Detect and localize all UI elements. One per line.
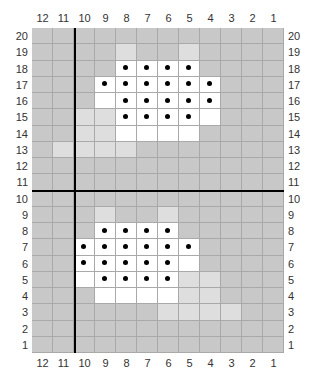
grid-cell (263, 44, 284, 60)
grid-cell (116, 174, 137, 190)
grid-cell (116, 321, 137, 337)
dot-icon (123, 244, 128, 249)
grid-cell (179, 288, 200, 304)
grid-cell (263, 126, 284, 142)
grid-cell (179, 93, 200, 109)
grid-cell (53, 321, 74, 337)
row-label: 19 (288, 44, 312, 60)
grid-cell (221, 337, 242, 353)
grid-cell (263, 174, 284, 190)
grid-cell (221, 256, 242, 272)
grid-cell (53, 158, 74, 174)
dot-icon (102, 260, 107, 265)
grid-cell (53, 61, 74, 77)
column-label: 1 (263, 12, 284, 24)
grid-cell (53, 191, 74, 207)
dot-icon (123, 276, 128, 281)
grid-cell (53, 44, 74, 60)
grid-cell (116, 61, 137, 77)
grid-cell (263, 239, 284, 255)
row-label: 20 (288, 28, 312, 44)
grid-cell (242, 142, 263, 158)
grid-cell (32, 207, 53, 223)
column-label: 10 (74, 12, 95, 24)
dot-icon (123, 260, 128, 265)
grid-cell (179, 61, 200, 77)
grid-cell (200, 304, 221, 320)
row-labels-left: 2019181716151413121110987654321 (4, 28, 28, 353)
grid-cell (74, 158, 95, 174)
grid-cell (32, 337, 53, 353)
dot-icon (186, 244, 191, 249)
grid-cell (263, 272, 284, 288)
grid-cell (158, 223, 179, 239)
grid-cell (242, 223, 263, 239)
grid-cell (95, 61, 116, 77)
grid-cell (95, 28, 116, 44)
grid-cell (242, 304, 263, 320)
grid-cell (158, 142, 179, 158)
row-label: 1 (288, 337, 312, 353)
grid-cell (137, 239, 158, 255)
column-labels-bottom: 121110987654321 (32, 357, 284, 369)
grid-cell (53, 174, 74, 190)
grid-cell (116, 223, 137, 239)
grid-cell (137, 272, 158, 288)
grid-cell (95, 321, 116, 337)
grid-cell (95, 158, 116, 174)
grid-cell (242, 93, 263, 109)
column-label: 11 (53, 12, 74, 24)
grid-cell (263, 77, 284, 93)
grid-cell (53, 109, 74, 125)
column-label: 1 (263, 357, 284, 369)
grid-cell (158, 93, 179, 109)
grid-cell (242, 126, 263, 142)
grid-cell (221, 158, 242, 174)
grid-cell (200, 77, 221, 93)
column-label: 2 (242, 357, 263, 369)
grid-cell (95, 77, 116, 93)
grid-cell (200, 321, 221, 337)
grid-cell (32, 223, 53, 239)
grid-cell (200, 239, 221, 255)
grid-cell (263, 337, 284, 353)
dot-icon (165, 260, 170, 265)
grid-cell (74, 272, 95, 288)
grid-cell (95, 304, 116, 320)
row-label: 17 (4, 77, 28, 93)
grid-cell (53, 239, 74, 255)
row-label: 7 (288, 239, 312, 255)
grid-cell (158, 239, 179, 255)
dot-icon (144, 114, 149, 119)
grid-cell (116, 77, 137, 93)
grid-cell (95, 191, 116, 207)
row-label: 9 (288, 207, 312, 223)
dot-icon (102, 81, 107, 86)
column-label: 7 (137, 12, 158, 24)
dot-icon (144, 260, 149, 265)
dot-icon (102, 276, 107, 281)
column-label: 2 (242, 12, 263, 24)
grid-cell (116, 142, 137, 158)
grid-cell (242, 288, 263, 304)
column-label: 4 (200, 12, 221, 24)
grid-cell (32, 191, 53, 207)
row-label: 9 (4, 207, 28, 223)
grid-cell (95, 207, 116, 223)
grid-cell (74, 77, 95, 93)
grid-cell (95, 126, 116, 142)
row-label: 10 (4, 191, 28, 207)
grid-cell (116, 239, 137, 255)
row-label: 10 (288, 191, 312, 207)
grid-cell (137, 142, 158, 158)
grid-cell (200, 207, 221, 223)
dot-icon (81, 260, 86, 265)
grid-cell (158, 288, 179, 304)
grid-cell (74, 337, 95, 353)
grid-cell (263, 304, 284, 320)
dot-icon (186, 65, 191, 70)
grid-cell (242, 191, 263, 207)
grid-cell (221, 174, 242, 190)
grid-cell (158, 158, 179, 174)
grid-cell (137, 337, 158, 353)
